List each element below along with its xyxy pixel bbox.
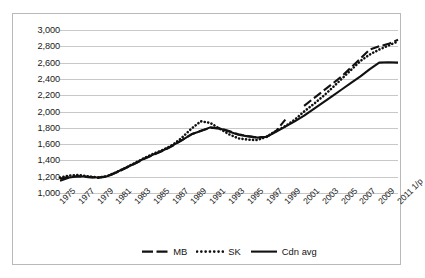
x-axis-tick-label: 1995 xyxy=(245,186,265,206)
x-axis-tick-label: 1977 xyxy=(76,186,96,206)
legend-item-sk[interactable]: SK xyxy=(196,246,241,257)
x-axis-tick-label: 1975 xyxy=(57,186,77,206)
x-axis-tick-label: 2007 xyxy=(357,186,377,206)
legend-swatch-solid xyxy=(250,247,278,256)
x-axis-tick-label: 1997 xyxy=(264,186,284,206)
legend-label: MB xyxy=(173,246,187,257)
x-axis-tick-label: 1991 xyxy=(207,186,227,206)
x-axis-tick-label: 1985 xyxy=(151,186,171,206)
x-axis-tick-label: 2009 xyxy=(376,186,396,206)
x-axis-tick-label: 1983 xyxy=(132,186,152,206)
x-axis-tick-label: 2003 xyxy=(320,186,340,206)
x-axis-tick-label: 2011 1/p xyxy=(395,176,425,206)
plot-area: 1,0001,2001,4001,6001,8002,0002,2002,400… xyxy=(13,14,402,266)
chart-frame: 1,0001,2001,4001,6001,8002,0002,2002,400… xyxy=(12,13,401,265)
x-axis-tick-label: 2001 xyxy=(301,186,321,206)
legend-label: Cdn avg xyxy=(282,246,317,257)
x-axis-tick-label: 1993 xyxy=(226,186,246,206)
legend-label: SK xyxy=(228,246,241,257)
legend-swatch-dotted xyxy=(196,247,224,256)
x-axis-tick-label: 1979 xyxy=(95,186,115,206)
legend-item-cdn-avg[interactable]: Cdn avg xyxy=(250,246,317,257)
x-axis-labels: 1975197719791981198319851987198919911993… xyxy=(13,14,402,266)
x-axis-tick-label: 1981 xyxy=(113,186,133,206)
x-axis-tick-label: 1987 xyxy=(170,186,190,206)
x-axis-tick-label: 2005 xyxy=(339,186,359,206)
x-axis-tick-label: 1999 xyxy=(282,186,302,206)
legend-swatch-dashed xyxy=(141,247,169,256)
x-axis-tick-label: 1989 xyxy=(188,186,208,206)
chart-legend: MBSKCdn avg xyxy=(60,243,398,259)
legend-item-mb[interactable]: MB xyxy=(141,246,187,257)
